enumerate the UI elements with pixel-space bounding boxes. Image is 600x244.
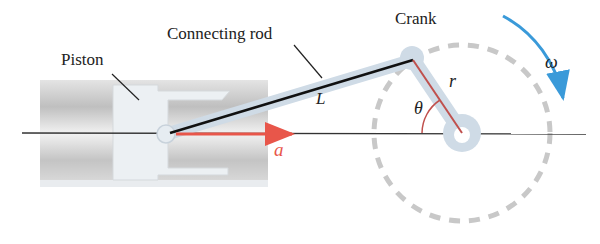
mechanism-diagram bbox=[0, 0, 600, 244]
piston-label: Piston bbox=[61, 51, 104, 68]
acceleration-label: a bbox=[274, 140, 284, 159]
crank-label: Crank bbox=[395, 10, 437, 27]
crank-radius-label: r bbox=[449, 72, 456, 90]
theta-label: θ bbox=[414, 99, 423, 117]
rod-length-label: L bbox=[316, 90, 325, 107]
crank-link bbox=[400, 46, 481, 152]
connecting-rod-label: Connecting rod bbox=[167, 25, 272, 42]
rod-leader bbox=[294, 45, 322, 78]
omega-label: ω bbox=[545, 53, 558, 71]
